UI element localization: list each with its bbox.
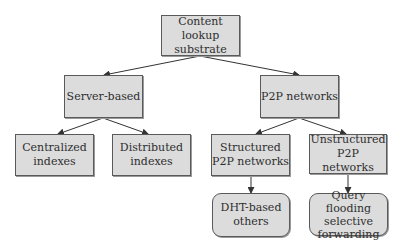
node-distributed-indexes: Distributed indexes (112, 134, 191, 176)
edge-server-distributed (103, 118, 148, 134)
node-structured-p2p-networks: Structured P2P networks (211, 134, 290, 176)
edge-root-p2p (200, 56, 299, 75)
edge-p2p-unstructured (299, 118, 346, 134)
node-p2p-networks: P2P networks (260, 75, 339, 118)
edge-root-server (104, 56, 200, 75)
node-dht-based-others: DHT-based others (212, 193, 290, 237)
edge-server-centralized (58, 118, 103, 134)
edge-p2p-structured (256, 118, 299, 134)
node-query-flooding-selective-forwarding: Query flooding selective forwarding (309, 193, 388, 236)
node-unstructured-p2p-networks: Unstructured P2P networks (309, 134, 387, 174)
node-centralized-indexes: Centralized indexes (15, 134, 94, 176)
node-server-based: Server-based (64, 75, 143, 118)
node-content-lookup-substrate: Content lookup substrate (161, 15, 240, 56)
